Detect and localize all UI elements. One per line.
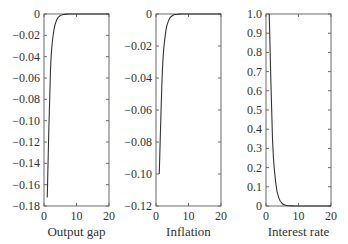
- x-tick-label: 0: [263, 209, 269, 223]
- x-axis-label: Output gap: [47, 224, 105, 239]
- x-tick-label: 0: [153, 209, 159, 223]
- y-tick-label: 1.0: [247, 7, 262, 21]
- output-gap-panel: 0−0.02−0.04−0.06−0.08−0.10−0.12−0.14−0.1…: [12, 7, 115, 239]
- x-tick-label: 0: [41, 209, 47, 223]
- plot-frame: [44, 14, 109, 206]
- y-tick-label: 0.2: [247, 161, 262, 175]
- interest-rate-curve: [269, 14, 331, 206]
- y-tick-label: 0.1: [247, 180, 262, 194]
- y-tick-label: −0.02: [124, 39, 152, 53]
- interest-rate-panel: 1.00.90.80.70.60.50.40.30.20.1001020Inte…: [247, 7, 337, 239]
- y-tick-label: −0.08: [124, 135, 152, 149]
- x-tick-label: 10: [71, 209, 83, 223]
- y-tick-label: 0.7: [247, 65, 262, 79]
- y-tick-label: −0.06: [124, 103, 152, 117]
- y-tick-label: 0.8: [247, 45, 262, 59]
- y-tick-label: −0.10: [124, 167, 152, 181]
- x-tick-label: 20: [103, 209, 115, 223]
- y-tick-label: 0: [256, 199, 262, 213]
- output-gap-curve: [47, 14, 109, 197]
- inflation-panel: 0−0.02−0.04−0.06−0.08−0.10−0.1201020Infl…: [124, 7, 227, 239]
- x-axis-label: Inflation: [166, 224, 211, 239]
- y-tick-label: 0.3: [247, 141, 262, 155]
- plot-frame: [266, 14, 331, 206]
- y-tick-label: −0.04: [12, 50, 40, 64]
- plot-frame: [156, 14, 221, 206]
- y-tick-label: −0.14: [12, 156, 40, 170]
- y-tick-label: −0.12: [124, 199, 152, 213]
- y-tick-label: −0.16: [12, 178, 40, 192]
- x-tick-label: 20: [325, 209, 337, 223]
- y-tick-label: 0.4: [247, 122, 262, 136]
- y-tick-label: 0.6: [247, 84, 262, 98]
- y-tick-label: −0.04: [124, 71, 152, 85]
- y-tick-label: 0.9: [247, 26, 262, 40]
- x-axis-label: Interest rate: [268, 224, 330, 239]
- x-tick-label: 20: [215, 209, 227, 223]
- y-tick-label: 0: [146, 7, 152, 21]
- y-tick-label: −0.08: [12, 92, 40, 106]
- impulse-response-figure: 0−0.02−0.04−0.06−0.08−0.10−0.12−0.14−0.1…: [0, 0, 348, 244]
- x-tick-label: 10: [183, 209, 195, 223]
- y-tick-label: −0.06: [12, 71, 40, 85]
- y-tick-label: 0: [34, 7, 40, 21]
- x-tick-label: 10: [293, 209, 305, 223]
- y-tick-label: 0.5: [247, 103, 262, 117]
- y-tick-label: −0.10: [12, 114, 40, 128]
- inflation-curve: [159, 14, 221, 174]
- y-tick-label: −0.02: [12, 28, 40, 42]
- y-tick-label: −0.18: [12, 199, 40, 213]
- y-tick-label: −0.12: [12, 135, 40, 149]
